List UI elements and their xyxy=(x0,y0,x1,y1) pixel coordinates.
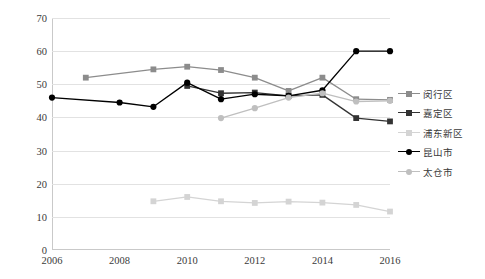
data-point xyxy=(117,99,123,105)
legend-label: 昆山市 xyxy=(423,145,453,159)
data-point xyxy=(150,104,156,110)
data-point xyxy=(49,94,55,100)
series-昆山市 xyxy=(49,48,393,110)
legend-label: 嘉定区 xyxy=(423,106,453,120)
data-point xyxy=(353,115,359,121)
y-axis-tick-label: 40 xyxy=(37,112,48,123)
data-point xyxy=(184,80,190,86)
legend-swatch-icon xyxy=(398,107,420,119)
legend-item-嘉定区[interactable]: 嘉定区 xyxy=(398,104,484,124)
data-point xyxy=(83,75,89,81)
data-point xyxy=(151,198,157,204)
y-axis-tick-label: 30 xyxy=(37,145,48,156)
series-line xyxy=(221,93,390,118)
plot-area: 010203040506070 200620082010201220142016 xyxy=(52,18,390,250)
data-point xyxy=(387,98,393,104)
data-point xyxy=(252,75,258,81)
data-point xyxy=(151,66,157,72)
data-point xyxy=(218,67,224,73)
data-point xyxy=(218,90,224,96)
data-point xyxy=(218,96,224,102)
series-line xyxy=(86,67,390,100)
y-axis-tick-label: 60 xyxy=(37,46,48,57)
data-point xyxy=(252,200,258,206)
x-axis-tick-label: 2014 xyxy=(312,255,333,266)
line-chart: 镇级可用财力占全区/县财力比重（单位：%） 010203040506070 20… xyxy=(0,0,485,279)
y-axis-tick-label: 0 xyxy=(42,245,47,256)
legend-label: 太仓市 xyxy=(423,165,453,179)
data-point xyxy=(353,98,359,104)
data-point xyxy=(320,200,326,206)
legend-item-闵行区[interactable]: 闵行区 xyxy=(398,84,484,104)
x-axis-tick-label: 2016 xyxy=(380,255,401,266)
data-point xyxy=(320,75,326,81)
series-layer xyxy=(52,18,390,250)
y-axis-tick-label: 20 xyxy=(37,178,48,189)
x-axis-tick-label: 2008 xyxy=(109,255,130,266)
data-point xyxy=(184,64,190,70)
data-point xyxy=(184,194,190,200)
data-point xyxy=(252,91,258,97)
data-point xyxy=(387,209,393,215)
legend: 闵行区嘉定区浦东新区昆山市太仓市 xyxy=(398,84,484,182)
legend-swatch-icon xyxy=(398,146,420,158)
data-point xyxy=(387,119,393,125)
legend-item-浦东新区[interactable]: 浦东新区 xyxy=(398,123,484,143)
data-point xyxy=(286,199,292,205)
data-point xyxy=(286,94,292,100)
series-浦东新区 xyxy=(151,194,393,214)
legend-item-昆山市[interactable]: 昆山市 xyxy=(398,143,484,163)
series-太仓市 xyxy=(218,90,393,121)
legend-label: 浦东新区 xyxy=(423,126,463,140)
y-axis-tick-label: 70 xyxy=(37,13,48,24)
data-point xyxy=(252,105,258,111)
legend-swatch-icon xyxy=(398,166,420,178)
legend-swatch-icon xyxy=(398,88,420,100)
legend-label: 闵行区 xyxy=(423,87,453,101)
data-point xyxy=(353,48,359,54)
x-axis-tick-label: 2012 xyxy=(244,255,265,266)
x-axis-tick-label: 2006 xyxy=(42,255,63,266)
data-point xyxy=(218,198,224,204)
legend-swatch-icon xyxy=(398,127,420,139)
data-point xyxy=(387,48,393,54)
y-axis-tick-label: 10 xyxy=(37,211,48,222)
data-point xyxy=(353,202,359,208)
data-point xyxy=(218,115,224,121)
y-axis-tick-label: 50 xyxy=(37,79,48,90)
x-axis-tick-label: 2010 xyxy=(177,255,198,266)
data-point xyxy=(319,90,325,96)
legend-item-太仓市[interactable]: 太仓市 xyxy=(398,162,484,182)
